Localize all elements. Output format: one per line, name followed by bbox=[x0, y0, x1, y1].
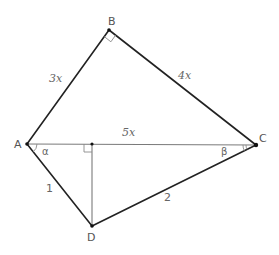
label-length-ac: 5x bbox=[122, 126, 136, 139]
vertex-b bbox=[107, 28, 111, 32]
label-length-ab: 3x bbox=[49, 72, 63, 85]
segment-ad bbox=[27, 144, 92, 226]
segment-dc bbox=[92, 145, 256, 226]
label-length-dc: 2 bbox=[164, 191, 171, 204]
label-point-c: C bbox=[259, 132, 267, 145]
label-point-b: B bbox=[108, 15, 116, 28]
label-point-a: A bbox=[14, 138, 22, 151]
label-length-ad: 1 bbox=[46, 182, 53, 195]
vertex-a bbox=[25, 142, 29, 146]
vertex-d bbox=[90, 224, 94, 228]
right-angle-marker-h bbox=[84, 144, 92, 152]
angle-arc-beta-outer bbox=[243, 145, 244, 151]
geometry-diagram: A B C D 3x 4x 5x 1 2 α β bbox=[0, 0, 279, 255]
label-point-d: D bbox=[87, 231, 95, 244]
vertex-h bbox=[90, 142, 93, 145]
label-angle-alpha: α bbox=[42, 146, 49, 157]
segment-ac bbox=[27, 144, 256, 145]
label-angle-beta: β bbox=[221, 146, 227, 157]
segment-ab bbox=[27, 30, 109, 144]
right-angle-marker-b bbox=[104, 35, 115, 42]
label-length-bc: 4x bbox=[177, 69, 192, 82]
angle-arc-alpha bbox=[33, 144, 37, 152]
angle-arc-beta-inner bbox=[246, 145, 247, 150]
vertex-c bbox=[254, 143, 258, 147]
